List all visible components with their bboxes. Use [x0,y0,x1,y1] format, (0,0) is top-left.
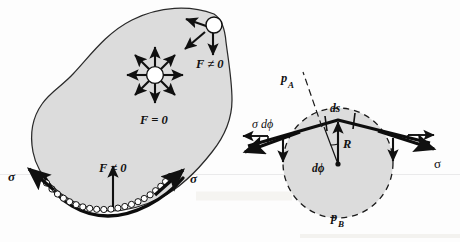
liquid-blob-group: F = 0 F ≠ 0 F ≠ 0 σ σ [8,8,232,216]
sigma-right-label: σ [190,171,198,186]
pressure-above-label: p [280,71,287,85]
interior-force-label: F = 0 [139,113,168,127]
liquid-blob-shape [32,8,232,211]
pressure-below-subscript: B [337,219,344,229]
sigma-dphi-label: σ dϕ [252,117,273,131]
surface-force-label: F ≠ 0 [195,57,224,71]
sigma-left-label: σ [8,169,16,184]
surface-element-group: p A p B ds R dϕ σ dϕ σ [243,71,441,229]
radius-label: R [342,137,351,151]
interior-molecule [147,67,164,84]
pressure-below-label: p [330,210,337,224]
net-force-label: F ≠ 0 [98,161,127,175]
sigma-right-tension-label: σ [434,156,441,171]
pressure-above-subscript: A [287,80,294,90]
surface-molecule [206,17,222,33]
dphi-label: dϕ [312,162,325,175]
diagram-svg: F = 0 F ≠ 0 F ≠ 0 σ σ [0,0,460,242]
ds-label: ds [330,102,341,114]
figure-canvas: F = 0 F ≠ 0 F ≠ 0 σ σ [0,0,460,242]
